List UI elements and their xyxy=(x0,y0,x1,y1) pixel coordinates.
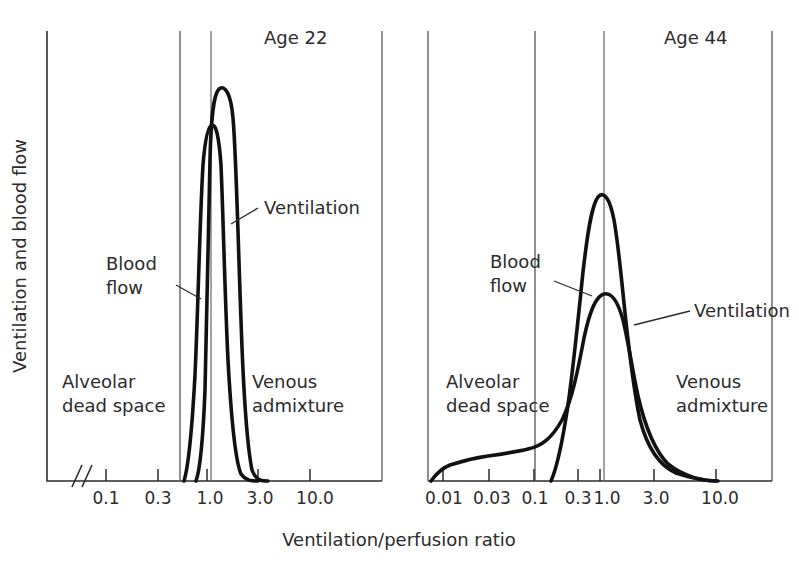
tick-label-right-0: 0.01 xyxy=(425,488,463,508)
tick-label-right-1: 0.03 xyxy=(473,488,511,508)
panel-age-44: Age 44 Blood flow Ventilation Alveolar d… xyxy=(425,27,790,508)
series-label-ventilation-age44: Ventilation xyxy=(694,300,790,321)
leader-blood-flow-age44 xyxy=(554,281,592,296)
panel-title-age-22: Age 22 xyxy=(264,27,327,48)
tick-label-right-6: 10.0 xyxy=(701,488,739,508)
axis-break-icon xyxy=(72,465,92,487)
region-label-venous-admixture-age44-line1: Venous xyxy=(676,371,741,392)
series-label-blood-flow-age44-line1: Blood xyxy=(490,251,541,272)
region-label-venous-admixture-age22-line1: Venous xyxy=(252,371,317,392)
region-label-dead-space-age44-line2: dead space xyxy=(446,395,549,416)
leader-ventilation-age22 xyxy=(231,208,258,224)
panel-title-age-44: Age 44 xyxy=(664,27,727,48)
region-label-venous-admixture-age44-line2: admixture xyxy=(676,395,768,416)
tick-label-right-3: 0.3 xyxy=(564,488,591,508)
chart-canvas: Age 22 Ventilation Blood flow Alveolar d… xyxy=(0,0,799,576)
region-label-venous-admixture-age22-line2: admixture xyxy=(252,395,344,416)
region-label-dead-space-age22-line1: Alveolar xyxy=(62,371,136,392)
y-axis-title: Ventilation and blood flow xyxy=(9,139,30,373)
region-label-dead-space-age22-line2: dead space xyxy=(62,395,165,416)
leader-ventilation-age44 xyxy=(634,311,690,325)
x-axis-title: Ventilation/perfusion ratio xyxy=(282,529,516,550)
tick-label-left-4: 10.0 xyxy=(296,488,334,508)
vq-distribution-figure: Age 22 Ventilation Blood flow Alveolar d… xyxy=(0,0,799,576)
tick-label-left-1: 0.3 xyxy=(144,488,171,508)
panel-age-22: Age 22 Ventilation Blood flow Alveolar d… xyxy=(47,27,382,508)
series-label-blood-flow-age22-line1: Blood xyxy=(106,253,157,274)
tick-label-right-4: 1.0 xyxy=(593,488,620,508)
region-label-dead-space-age44-line1: Alveolar xyxy=(446,371,520,392)
tick-marks-left xyxy=(106,469,310,481)
tick-label-left-2: 1.0 xyxy=(196,488,223,508)
tick-label-right-2: 0.1 xyxy=(521,488,548,508)
tick-label-left-3: 3.0 xyxy=(246,488,273,508)
series-label-ventilation-age22: Ventilation xyxy=(264,197,360,218)
curve-blood-flow-age44 xyxy=(551,195,718,481)
tick-label-right-5: 3.0 xyxy=(642,488,669,508)
series-label-blood-flow-age44-line2: flow xyxy=(490,275,527,296)
tick-label-left-0: 0.1 xyxy=(92,488,119,508)
series-label-blood-flow-age22-line2: flow xyxy=(106,277,143,298)
